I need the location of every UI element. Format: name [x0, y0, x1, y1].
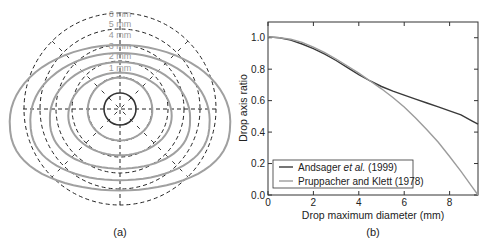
drop-label: 5 mm: [109, 19, 132, 29]
drop-label: 6 mm: [109, 9, 132, 19]
panel-b-axis-ratio-chart: 02468 0.00.20.40.60.81.0 Drop maximum di…: [237, 22, 478, 238]
x-axis-label: Drop maximum diameter (mm): [302, 209, 444, 221]
y-tick-label: 1.0: [251, 32, 265, 43]
x-tick-label: 0: [265, 197, 271, 208]
y-tick-label: 0.2: [251, 158, 265, 169]
legend: Andsager et al. (1999) Pruppacher and Kl…: [273, 160, 424, 188]
y-tick-label: 0.6: [251, 95, 265, 106]
drop-label: 2 mm: [109, 51, 132, 61]
legend-label-pruppacher: Pruppacher and Klett (1978): [298, 176, 424, 187]
y-tick-label: 0.0: [251, 190, 265, 201]
y-axis-label: Drop axis ratio: [237, 74, 249, 142]
drop-label: 1 mm: [109, 63, 132, 73]
x-tick-label: 6: [401, 197, 407, 208]
figure: 1 mm2 mm3 mm4 mm5 mm6 mm (a) 02468 0.00.…: [0, 0, 490, 246]
panel-b-label: (b): [366, 226, 379, 238]
y-tick-label: 0.8: [251, 64, 265, 75]
series-line-andsager: [268, 37, 478, 124]
legend-label-andsager: Andsager et al. (1999): [298, 162, 397, 173]
drop-labels: 1 mm2 mm3 mm4 mm5 mm6 mm: [109, 9, 132, 73]
drop-label: 4 mm: [109, 30, 132, 40]
panel-a-label: (a): [113, 226, 126, 238]
x-tick-label: 8: [447, 197, 453, 208]
drop-label: 3 mm: [109, 41, 132, 51]
y-tick-label: 0.4: [251, 127, 265, 138]
panel-a-drop-shapes: 1 mm2 mm3 mm4 mm5 mm6 mm (a): [10, 9, 231, 238]
x-tick-label: 2: [311, 197, 317, 208]
x-tick-label: 4: [356, 197, 362, 208]
